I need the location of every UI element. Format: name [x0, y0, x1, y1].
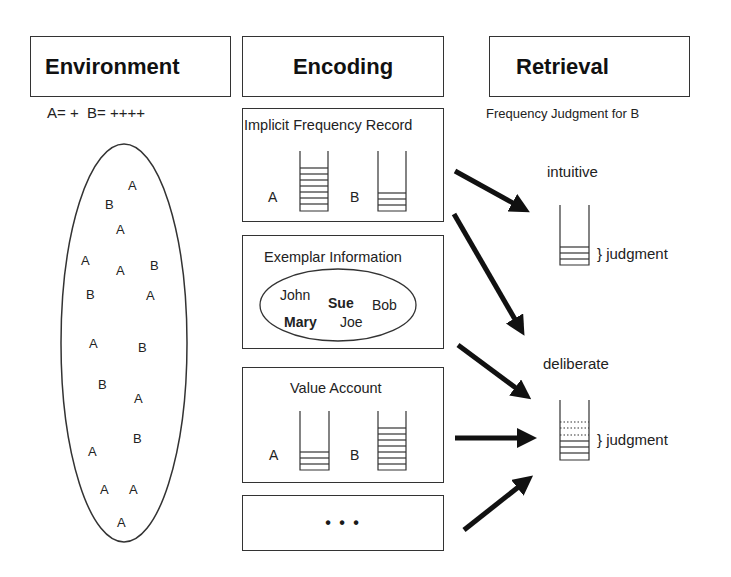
letter: B — [86, 287, 95, 302]
exemplar-name-mary: Mary — [284, 314, 317, 330]
environment-ellipse — [61, 144, 187, 542]
exemplar-name-sue: Sue — [328, 295, 354, 311]
letter: B — [98, 377, 107, 392]
value-label-b: B — [350, 447, 359, 463]
letter: A — [116, 263, 125, 278]
value-label-a: A — [269, 447, 278, 463]
deliberate-judgment-label: } judgment — [597, 431, 668, 448]
implicit-label-a: A — [268, 189, 277, 205]
letter: A — [129, 482, 138, 497]
implicit-title: Implicit Frequency Record — [244, 117, 412, 133]
arrow-implicit-to-deliberate — [454, 214, 520, 328]
intuitive-judgment-label: } judgment — [597, 245, 668, 262]
value-title: Value Account — [290, 380, 382, 396]
letter: A — [81, 253, 90, 268]
exemplar-title: Exemplar Information — [264, 249, 402, 265]
exemplar-name-john: John — [280, 287, 310, 303]
letter: A — [146, 288, 155, 303]
exemplar-name-joe: Joe — [340, 314, 363, 330]
more-encodings-box: • • • — [242, 495, 444, 551]
deliberate-label: deliberate — [543, 355, 609, 372]
letter: A — [88, 444, 97, 459]
implicit-label-b: B — [350, 189, 359, 205]
letter: A — [100, 482, 109, 497]
letter: B — [105, 197, 114, 212]
deliberate-judgment-stack — [560, 400, 589, 460]
letter: B — [138, 340, 147, 355]
letter: A — [117, 515, 126, 530]
arrow-more-to-deliberate — [464, 481, 526, 530]
letter: B — [133, 431, 142, 446]
intuitive-judgment-stack — [560, 205, 589, 265]
letter: A — [116, 222, 125, 237]
letter: A — [128, 178, 137, 193]
intuitive-label: intuitive — [547, 163, 598, 180]
value-account-box: Value Account — [242, 367, 444, 483]
arrow-implicit-to-intuitive — [455, 171, 522, 208]
exemplar-information-box: Exemplar Information — [242, 235, 444, 349]
letter: A — [134, 391, 143, 406]
ellipsis-dots: • • • — [325, 514, 361, 532]
exemplar-name-bob: Bob — [372, 297, 397, 313]
letter: B — [150, 258, 159, 273]
letter: A — [89, 336, 98, 351]
arrow-exemplar-to-deliberate — [458, 345, 524, 394]
